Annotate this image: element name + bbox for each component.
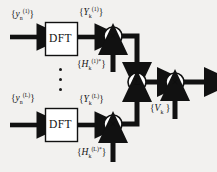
dft-block-bottom-label: DFT: [49, 118, 72, 130]
multiplier-glyph-bottom: ×: [105, 117, 121, 132]
diagram-canvas: [0, 0, 217, 172]
dft-block-top-label: DFT: [49, 32, 72, 44]
input-top-sub: n: [20, 15, 23, 21]
multiplier-to-sum-path-top: [122, 36, 137, 68]
input-bottom-sub: n: [20, 99, 23, 105]
channel-label-bottom: {Hk(L)*}: [77, 148, 106, 158]
dft-out-bottom-sub: k: [89, 100, 92, 106]
dft-output-label-bottom: {Yk(L)}: [79, 95, 104, 105]
input-label-bottom: {yn(L)}: [11, 94, 35, 104]
equalizer-label: {Vk }: [150, 104, 170, 114]
ellipsis-dot: [59, 88, 62, 91]
input-top-sup: (1): [23, 8, 30, 14]
channel-bottom-sub: k: [88, 153, 91, 159]
multiplier-to-sum-path-bottom: [122, 96, 137, 124]
block-diagram-figure: DFT DFT × × × Σ {yn(1)} {Yk(1)} {Hk(1)*}…: [0, 0, 217, 172]
multiplier-glyph-output: ×: [167, 75, 183, 90]
ellipsis-dot: [59, 78, 62, 81]
dft-output-label-top: {Yk(1)}: [79, 8, 103, 18]
channel-label-top: {Hk(1)*}: [77, 60, 106, 70]
channel-top-sup: (1)*: [91, 58, 101, 64]
channel-top-sub: k: [88, 65, 91, 71]
dft-out-top-sub: k: [89, 13, 92, 19]
channel-bottom-sup: (L)*: [91, 146, 101, 152]
dft-out-top-sup: (1): [92, 6, 99, 12]
input-label-top: {yn(1)}: [11, 10, 34, 20]
multiplier-glyph-top: ×: [105, 29, 121, 44]
summation-glyph: Σ: [129, 75, 145, 87]
ellipsis-dot: [59, 68, 62, 71]
